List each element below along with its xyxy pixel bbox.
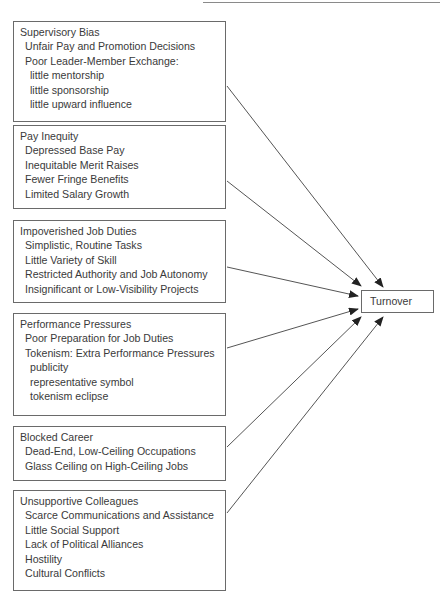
factor-item: Fewer Fringe Benefits (20, 172, 225, 186)
factor-box-performance-pressures: Performance Pressures Poor Preparation f… (13, 313, 226, 416)
factor-item: Dead-End, Low-Ceiling Occupations (20, 444, 225, 458)
factor-item: Cultural Conflicts (20, 566, 225, 580)
factor-item: Scarce Communications and Assistance (20, 508, 225, 522)
arrow-unsupportive-colleagues (227, 317, 383, 513)
factor-box-unsupportive-colleagues: Unsupportive Colleagues Scarce Communica… (13, 490, 226, 591)
factor-title: Performance Pressures (20, 317, 225, 331)
factor-item: Tokenism: Extra Performance Pressures (20, 346, 225, 360)
factor-item: Insignificant or Low-Visibility Projects (20, 282, 225, 296)
header-rule (203, 2, 440, 3)
arrow-pay-inequity (227, 181, 361, 286)
outcome-box-turnover: Turnover (361, 290, 434, 313)
factor-item: Poor Preparation for Job Duties (20, 331, 225, 345)
factor-item: Depressed Base Pay (20, 143, 225, 157)
factor-item: Little Variety of Skill (20, 253, 225, 267)
factor-item: Hostility (20, 552, 225, 566)
outcome-label: Turnover (370, 295, 412, 307)
factor-subitem: little upward influence (20, 97, 225, 111)
factor-subitem: representative symbol (20, 375, 225, 389)
factor-item: Lack of Political Alliances (20, 537, 225, 551)
factor-item: Unfair Pay and Promotion Decisions (20, 39, 225, 53)
factor-item: Limited Salary Growth (20, 187, 225, 201)
arrow-performance-pressures (227, 309, 358, 348)
factor-box-impoverished-job-duties: Impoverished Job Duties Simplistic, Rout… (13, 220, 226, 303)
factor-box-pay-inequity: Pay Inequity Depressed Base Pay Inequita… (13, 125, 226, 209)
factor-subitem: little mentorship (20, 68, 225, 82)
factor-title: Supervisory Bias (20, 25, 225, 39)
arrow-supervisory-bias (227, 86, 383, 287)
factor-subitem: little sponsorship (20, 83, 225, 97)
factor-box-supervisory-bias: Supervisory Bias Unfair Pay and Promotio… (13, 21, 226, 122)
factor-subitem: publicity (20, 360, 225, 374)
factor-item: Poor Leader-Member Exchange: (20, 54, 225, 68)
factor-item: Inequitable Merit Raises (20, 158, 225, 172)
factor-title: Blocked Career (20, 430, 225, 444)
factor-title: Pay Inequity (20, 129, 225, 143)
factor-subitem: tokenism eclipse (20, 389, 225, 403)
arrow-blocked-career (227, 317, 361, 447)
arrow-impoverished-job-duties (227, 267, 358, 296)
factor-title: Unsupportive Colleagues (20, 494, 225, 508)
factor-item: Glass Ceiling on High-Ceiling Jobs (20, 459, 225, 473)
factor-item: Little Social Support (20, 523, 225, 537)
factor-item: Restricted Authority and Job Autonomy (20, 267, 225, 281)
factor-title: Impoverished Job Duties (20, 224, 225, 238)
factor-item: Simplistic, Routine Tasks (20, 238, 225, 252)
factor-box-blocked-career: Blocked Career Dead-End, Low-Ceiling Occ… (13, 426, 226, 481)
